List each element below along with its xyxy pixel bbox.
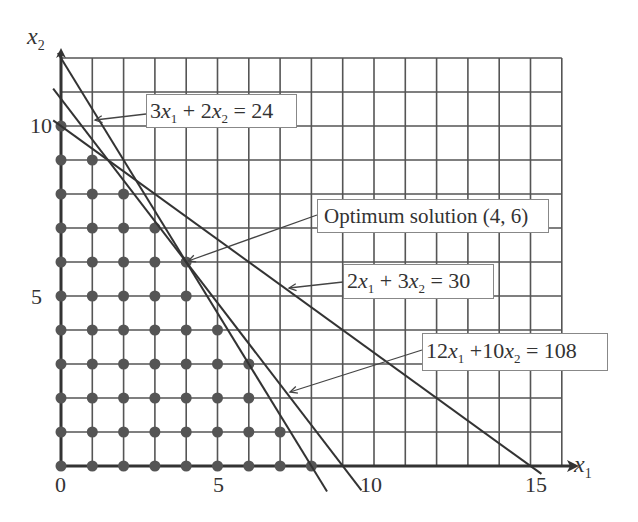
x-tick-5: 5 (213, 474, 224, 496)
constraint-label-2x1-3x2-30: 2x1 + 3x2 = 30 (343, 264, 494, 299)
y-tick-10: 10 (30, 115, 52, 137)
constraint-label-3x1-2x2-24: 3x1 + 2x2 = 24 (146, 94, 297, 128)
axes (56, 48, 579, 472)
y-axis-name: x2 (27, 24, 45, 48)
x-tick-15: 15 (525, 474, 547, 496)
objective-label-12x1-10x2-108: 12x1 +10x2 = 108 (422, 333, 608, 371)
optimum-solution-label: Optimum solution (4, 6) (317, 199, 549, 233)
grid (61, 58, 562, 466)
x-axis-name: x1 (574, 452, 592, 476)
x-tick-0: 0 (55, 474, 66, 496)
y-tick-5: 5 (31, 286, 42, 308)
lp-diagram (0, 0, 638, 522)
x-tick-10: 10 (360, 474, 382, 496)
